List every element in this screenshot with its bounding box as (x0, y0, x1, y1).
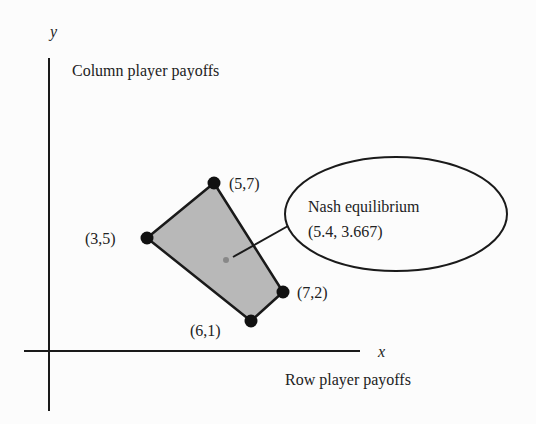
vertex-label-6-1: (6,1) (190, 322, 221, 340)
vertex-3-5 (141, 232, 154, 245)
y-axis-title: Column player payoffs (72, 62, 219, 80)
vertex-5-7 (208, 177, 221, 190)
callout-title: Nash equilibrium (308, 198, 420, 216)
vertex-7-2 (277, 286, 290, 299)
feasible-region (147, 183, 283, 321)
callout-value: (5.4, 3.667) (308, 223, 383, 241)
nash-equilibrium-point (223, 257, 229, 263)
vertex-label-3-5: (3,5) (85, 230, 116, 248)
x-axis-label: x (377, 343, 385, 360)
x-axis-title: Row player payoffs (285, 371, 411, 389)
vertex-6-1 (245, 315, 258, 328)
vertex-label-7-2: (7,2) (297, 284, 328, 302)
vertex-label-5-7: (5,7) (229, 175, 260, 193)
payoff-diagram: y Column player payoffs x Row player pay… (0, 0, 536, 424)
y-axis-label: y (48, 23, 58, 41)
